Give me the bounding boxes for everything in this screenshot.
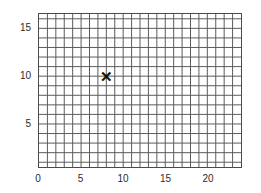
plot-grid-panel [38,13,242,168]
x-axis-tick-label: 20 [188,174,228,184]
y-axis-tick-label: 10 [20,71,31,81]
y-axis-tick-label: 5 [25,119,31,129]
y-axis-tick-label: 15 [20,23,31,33]
x-axis-tick-label: 5 [61,174,101,184]
x-axis-tick-label: 15 [146,174,186,184]
x-axis-tick-label: 10 [103,174,143,184]
scatter-plot-figure: 51015 05101520 ✕ [0,0,261,193]
gridlines [39,14,241,167]
x-axis-tick-label: 0 [18,174,58,184]
